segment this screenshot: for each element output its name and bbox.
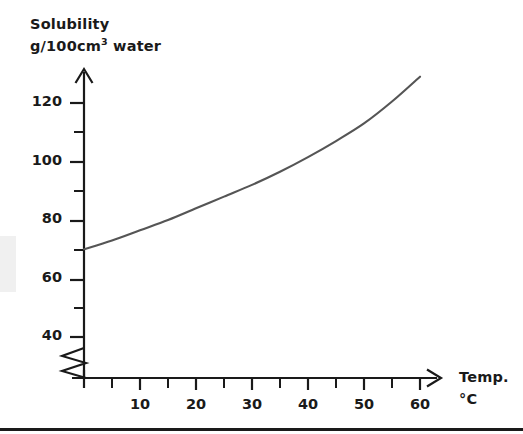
x-tick-label-60: 60: [400, 396, 440, 412]
y-axis-title-line-2: g/100cm3 water: [30, 38, 161, 54]
chart-plot-area: [0, 0, 523, 434]
y-tick-label-120: 120: [18, 93, 62, 109]
y-tick-label-40: 40: [18, 327, 62, 343]
y-axis-break-symbol: [62, 348, 86, 378]
y-tick-label-100: 100: [18, 152, 62, 168]
x-tick-label-20: 20: [176, 396, 216, 412]
y-axis-units-exponent: 3: [101, 36, 108, 47]
x-tick-label-30: 30: [232, 396, 272, 412]
page-bottom-rule: [0, 428, 523, 431]
solubility-chart-figure: Solubility g/100cm3 water Temp. °C 40608…: [0, 0, 523, 434]
x-tick-label-40: 40: [288, 396, 328, 412]
x-axis: [72, 370, 441, 387]
x-axis-title-line-2: °C: [459, 391, 477, 407]
y-axis-units-prefix: g/100cm: [30, 38, 101, 54]
y-axis: [76, 69, 93, 378]
y-tick-label-80: 80: [18, 210, 62, 226]
x-tick-label-10: 10: [120, 396, 160, 412]
x-axis-title-line-1: Temp.: [459, 369, 509, 385]
y-axis-major-ticks: [70, 103, 84, 337]
x-axis-major-ticks: [84, 370, 420, 390]
solubility-curve-line: [84, 77, 420, 250]
y-axis-title-line-1: Solubility: [30, 16, 109, 32]
x-tick-label-50: 50: [344, 396, 384, 412]
y-tick-label-60: 60: [18, 269, 62, 285]
y-axis-units-suffix: water: [108, 38, 161, 54]
